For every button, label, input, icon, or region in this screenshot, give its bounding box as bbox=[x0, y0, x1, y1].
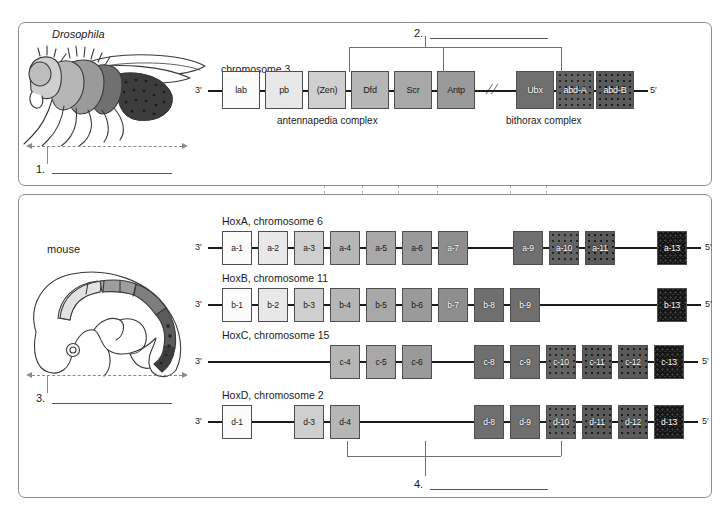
fly-gene-scr[interactable]: Scr bbox=[394, 71, 432, 109]
answer-blank-line-3[interactable] bbox=[52, 403, 172, 404]
hox-3prime-0: 3′ bbox=[195, 242, 202, 252]
hox-gene-a-11[interactable]: a-11 bbox=[585, 231, 615, 265]
fly-gene-label: Scr bbox=[406, 86, 421, 95]
hox-gene-c-8[interactable]: c-8 bbox=[474, 345, 504, 379]
bracket-2-top bbox=[349, 47, 561, 48]
fly-backbone-left bbox=[208, 90, 222, 92]
hox-gene-b-5[interactable]: b-5 bbox=[366, 288, 396, 322]
hox-gene-b-2[interactable]: b-2 bbox=[258, 288, 288, 322]
hox-gene-a-2[interactable]: a-2 bbox=[258, 231, 288, 265]
hox-gene-b-8[interactable]: b-8 bbox=[474, 288, 504, 322]
hox-3prime-1: 3′ bbox=[195, 299, 202, 309]
hox-gene-b-4[interactable]: b-4 bbox=[330, 288, 360, 322]
answer-blank-line-1[interactable] bbox=[52, 173, 172, 174]
hox-gene-label: a-1 bbox=[231, 244, 243, 253]
hox-gene-c-10[interactable]: c-10 bbox=[546, 345, 576, 379]
fly-gene-label: abd-A bbox=[562, 86, 587, 95]
bithorax-complex-label: bithorax complex bbox=[506, 115, 582, 126]
hox-gene-c-4[interactable]: c-4 bbox=[330, 345, 360, 379]
antennapedia-complex-label: antennapedia complex bbox=[277, 115, 378, 126]
hox-gene-a-1[interactable]: a-1 bbox=[222, 231, 252, 265]
hox-gene-label: d-1 bbox=[231, 418, 243, 427]
fly-gene-label: Ubx bbox=[526, 86, 543, 95]
hox-gene-label: b-7 bbox=[447, 301, 459, 310]
hox-gene-c-12[interactable]: c-12 bbox=[618, 345, 648, 379]
hox-gene-d-10[interactable]: d-10 bbox=[546, 405, 576, 439]
fly-gene-pb[interactable]: pb bbox=[265, 71, 303, 109]
answer-blank-line-2[interactable] bbox=[430, 38, 548, 39]
bracket-4-left bbox=[347, 441, 348, 456]
hox-5prime-2: 5′ bbox=[702, 356, 709, 366]
hox-gene-d-11[interactable]: d-11 bbox=[582, 405, 612, 439]
hox-gene-d-3[interactable]: d-3 bbox=[294, 405, 324, 439]
hox-gene-label: c-5 bbox=[375, 358, 386, 367]
fly-gene-dfd[interactable]: Dfd bbox=[351, 71, 389, 109]
fly-gene-abd-b[interactable]: abd-B bbox=[596, 71, 634, 109]
hox-gene-label: a-9 bbox=[522, 244, 534, 253]
hox-row-title-2: HoxC, chromosome 15 bbox=[222, 329, 329, 341]
fly-gene-ubx[interactable]: Ubx bbox=[516, 71, 554, 109]
hox-gene-label: d-10 bbox=[553, 418, 569, 427]
hox-gene-a-7[interactable]: a-7 bbox=[438, 231, 468, 265]
fly-3prime-end: 3′ bbox=[195, 85, 202, 95]
hox-gene-label: c-11 bbox=[589, 358, 604, 367]
hox-gene-d-13[interactable]: d-13 bbox=[654, 405, 684, 439]
hox-gene-c-5[interactable]: c-5 bbox=[366, 345, 396, 379]
hox-3prime-2: 3′ bbox=[195, 356, 202, 366]
hox-3prime-3: 3′ bbox=[195, 416, 202, 426]
hox-row-title-1: HoxB, chromosome 11 bbox=[222, 272, 328, 284]
mouse-label: mouse bbox=[47, 243, 80, 255]
hox-gene-a-9[interactable]: a-9 bbox=[513, 231, 543, 265]
hox-gene-d-1[interactable]: d-1 bbox=[222, 405, 252, 439]
fly-5prime-end: 5′ bbox=[650, 85, 657, 95]
hox-gene-a-6[interactable]: a-6 bbox=[402, 231, 432, 265]
fly-gene-lab[interactable]: lab bbox=[222, 71, 260, 109]
mouse-measure-arrow-right bbox=[182, 372, 188, 378]
drosophila-illustration bbox=[14, 36, 214, 146]
fly-gene-label: pb bbox=[278, 86, 290, 95]
bracket-4-mid bbox=[425, 441, 426, 456]
hox-gene-label: d-12 bbox=[625, 418, 641, 427]
hox-gene-label: a-13 bbox=[664, 244, 680, 253]
hox-gene-c-13[interactable]: c-13 bbox=[654, 345, 684, 379]
fly-backbone-right bbox=[634, 90, 648, 92]
bracket-4-right bbox=[561, 441, 562, 456]
hox-gene-label: b-2 bbox=[267, 301, 279, 310]
bracket-2-left bbox=[349, 47, 350, 72]
hox-gene-c-11[interactable]: c-11 bbox=[582, 345, 612, 379]
hox-gene-label: a-5 bbox=[375, 244, 387, 253]
hox-gene-a-13[interactable]: a-13 bbox=[657, 231, 687, 265]
fly-measure-arrow-left bbox=[26, 143, 32, 149]
hox-gene-b-7[interactable]: b-7 bbox=[438, 288, 468, 322]
hox-5prime-0: 5′ bbox=[705, 242, 712, 252]
fly-gene-abd-a[interactable]: abd-A bbox=[556, 71, 594, 109]
hox-gene-b-1[interactable]: b-1 bbox=[222, 288, 252, 322]
hox-row-title-3: HoxD, chromosome 2 bbox=[222, 389, 324, 401]
hox-gene-a-3[interactable]: a-3 bbox=[294, 231, 324, 265]
fly-gene-label: abd-B bbox=[602, 86, 627, 95]
hox-gene-b-3[interactable]: b-3 bbox=[294, 288, 324, 322]
hox-gene-label: b-4 bbox=[339, 301, 351, 310]
figure-canvas: Drosophila bbox=[0, 0, 728, 514]
hox-gene-d-8[interactable]: d-8 bbox=[474, 405, 504, 439]
fly-gene-zen[interactable]: (Zen) bbox=[308, 71, 346, 109]
hox-gene-d-9[interactable]: d-9 bbox=[510, 405, 540, 439]
hox-gene-label: a-11 bbox=[592, 244, 608, 253]
hox-gene-b-6[interactable]: b-6 bbox=[402, 288, 432, 322]
hox-gene-a-4[interactable]: a-4 bbox=[330, 231, 360, 265]
hox-gene-label: d-9 bbox=[519, 418, 531, 427]
answer-blank-line-4[interactable] bbox=[430, 489, 548, 490]
hox-gene-a-5[interactable]: a-5 bbox=[366, 231, 396, 265]
fly-measure-arrow-right bbox=[182, 143, 188, 149]
hox-gene-c-6[interactable]: c-6 bbox=[402, 345, 432, 379]
hox-row-title-0: HoxA, chromosome 6 bbox=[222, 215, 323, 227]
hox-gene-d-4[interactable]: d-4 bbox=[330, 405, 360, 439]
fly-gene-antp[interactable]: Antp bbox=[437, 71, 475, 109]
hox-gene-c-9[interactable]: c-9 bbox=[510, 345, 540, 379]
hox-gene-a-10[interactable]: a-10 bbox=[549, 231, 579, 265]
hox-gene-label: c-13 bbox=[661, 358, 677, 367]
hox-gene-label: c-8 bbox=[483, 358, 494, 367]
hox-gene-d-12[interactable]: d-12 bbox=[618, 405, 648, 439]
hox-gene-b-9[interactable]: b-9 bbox=[510, 288, 540, 322]
hox-gene-b-13[interactable]: b-13 bbox=[657, 288, 687, 322]
